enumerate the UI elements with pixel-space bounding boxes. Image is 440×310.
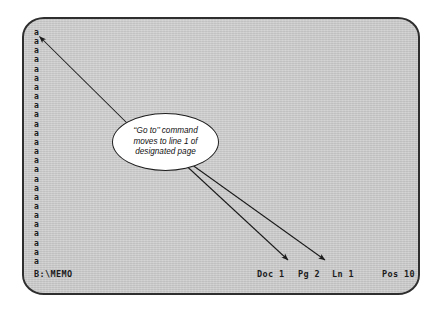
document-line: a xyxy=(34,193,39,202)
document-line: a xyxy=(34,28,39,37)
screen-texture-overlay xyxy=(24,19,418,293)
status-doc-indicator: Doc 1 xyxy=(257,269,285,279)
document-line: a xyxy=(34,55,39,64)
status-file-path: B:\MEMO xyxy=(34,269,73,279)
document-line: a xyxy=(34,156,39,165)
document-line: a xyxy=(34,110,39,119)
document-line: a xyxy=(34,248,39,257)
status-pos-indicator: Pos 10 xyxy=(382,269,415,279)
document-line: a xyxy=(34,83,39,92)
document-line: a xyxy=(34,202,39,211)
document-line: a xyxy=(34,257,39,266)
status-pg-indicator: Pg 2 xyxy=(298,269,320,279)
document-line: a xyxy=(34,37,39,46)
document-line: a xyxy=(34,65,39,74)
document-line: a xyxy=(34,92,39,101)
document-line: a xyxy=(34,175,39,184)
document-line: a xyxy=(34,138,39,147)
callout-line-1: ‘‘Go to’’ command xyxy=(133,126,197,136)
document-line: a xyxy=(34,184,39,193)
status-bar: B:\MEMO Doc 1 Pg 2 Ln 1 Pos 10 xyxy=(24,269,418,281)
status-ln-indicator: Ln 1 xyxy=(332,269,354,279)
document-line: a xyxy=(34,120,39,129)
document-line: a xyxy=(34,74,39,83)
document-line: a xyxy=(34,129,39,138)
callout-line-3: designated page xyxy=(135,147,196,157)
callout-line-2: moves to line 1 of xyxy=(133,137,197,147)
document-line: a xyxy=(34,165,39,174)
callout-bubble: ‘‘Go to’’ command moves to line 1 of des… xyxy=(112,113,219,171)
document-line: a xyxy=(34,147,39,156)
document-line: a xyxy=(34,46,39,55)
crt-screen-bezel: aaaaaaaaaaaaaaaaaaaaaaaaaa B:\MEMO Doc 1… xyxy=(22,17,420,295)
figure-root: aaaaaaaaaaaaaaaaaaaaaaaaaa B:\MEMO Doc 1… xyxy=(0,0,440,310)
document-line: a xyxy=(34,229,39,238)
document-line: a xyxy=(34,239,39,248)
document-text-area[interactable]: aaaaaaaaaaaaaaaaaaaaaaaaaa xyxy=(34,28,56,266)
document-line: a xyxy=(34,101,39,110)
document-line: a xyxy=(34,211,39,220)
document-line: a xyxy=(34,220,39,229)
